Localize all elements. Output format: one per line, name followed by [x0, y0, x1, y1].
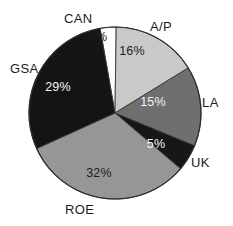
slice-label-a-p: A/P [150, 20, 172, 33]
slice-value-can: 3% [89, 30, 107, 44]
slice-label-la: LA [202, 96, 219, 109]
slice-label-can: CAN [64, 12, 93, 25]
slice-value-a-p: 16% [119, 44, 145, 58]
pie-chart: 3%16%15%5%32%29% CANA/PLAUKROEGSA [0, 0, 233, 226]
slice-value-uk: 5% [147, 137, 165, 151]
slice-label-gsa: GSA [10, 62, 39, 75]
slice-value-roe: 32% [86, 166, 112, 180]
pie-chart-canvas: 3%16%15%5%32%29% [0, 0, 233, 226]
slice-value-gsa: 29% [45, 80, 71, 94]
slice-label-uk: UK [191, 156, 210, 169]
slice-label-roe: ROE [65, 203, 94, 216]
slice-value-la: 15% [140, 95, 166, 109]
